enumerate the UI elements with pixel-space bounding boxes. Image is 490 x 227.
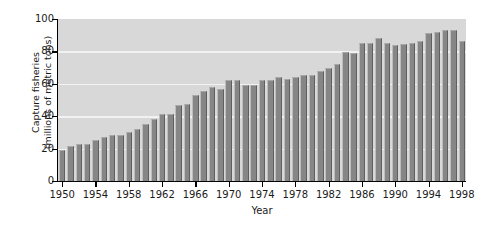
bar [126,132,132,181]
bar [342,52,348,181]
bar [300,75,306,181]
bar [409,43,415,181]
x-tick-mark [429,182,430,187]
x-tick-mark [229,182,230,187]
bar [209,87,215,181]
capture-fisheries-bar-chart: Capture fisheries (millions of metric to… [0,0,490,227]
bar [275,77,281,181]
bar [400,44,406,181]
bar [375,38,381,181]
plot-area [58,19,466,181]
bar [392,45,398,181]
y-tick-mark [52,149,57,150]
y-tick-label: 80 [30,46,54,56]
bar [117,135,123,181]
x-tick-mark [262,182,263,187]
x-tick-mark [95,182,96,187]
bar [459,41,465,181]
bar [92,140,98,181]
bar [151,119,157,181]
bar [434,32,440,181]
bar [134,129,140,181]
bar [334,64,340,181]
bar [76,144,82,181]
bar [359,43,365,181]
x-tick-mark [195,182,196,187]
bar [184,104,190,181]
bar [175,105,181,181]
bar [101,137,107,181]
bar [350,53,356,181]
bar [317,71,323,181]
y-tick-mark [52,181,57,182]
bar [309,75,315,181]
bar [384,43,390,181]
y-axis-tick-labels: 020406080100 [28,0,54,185]
bar [284,79,290,181]
bar [367,43,373,181]
bar [242,85,248,181]
y-tick-label: 40 [30,111,54,121]
y-tick-label: 0 [30,176,54,186]
bar [200,91,206,181]
x-tick-mark [129,182,130,187]
y-tick-mark [52,116,57,117]
bar [292,77,298,181]
y-tick-label: 60 [30,79,54,89]
bar [425,33,431,181]
x-tick-mark [62,182,63,187]
bar [59,150,65,181]
x-tick-mark [362,182,363,187]
bar [417,41,423,181]
bar [217,89,223,181]
y-tick-mark [52,84,57,85]
x-tick-mark [162,182,163,187]
x-axis-title: Year [58,205,466,216]
x-tick-mark [295,182,296,187]
bar [167,114,173,181]
bar [159,114,165,181]
bar [67,146,73,181]
bar [234,80,240,181]
bar [109,135,115,181]
x-tick-label: 1998 [442,189,482,200]
bar [267,80,273,181]
bar [250,85,256,181]
y-tick-label: 100 [30,14,54,24]
y-tick-mark [52,19,57,20]
bar [450,30,456,181]
bar-series [58,19,466,181]
bar [325,68,331,181]
x-tick-mark [462,182,463,187]
bar [225,80,231,181]
x-tick-mark [329,182,330,187]
y-tick-label: 20 [30,144,54,154]
bar [192,95,198,181]
bar [142,124,148,181]
bar [259,80,265,181]
x-tick-mark [395,182,396,187]
bar [442,30,448,181]
y-tick-mark [52,51,57,52]
bar [84,144,90,181]
